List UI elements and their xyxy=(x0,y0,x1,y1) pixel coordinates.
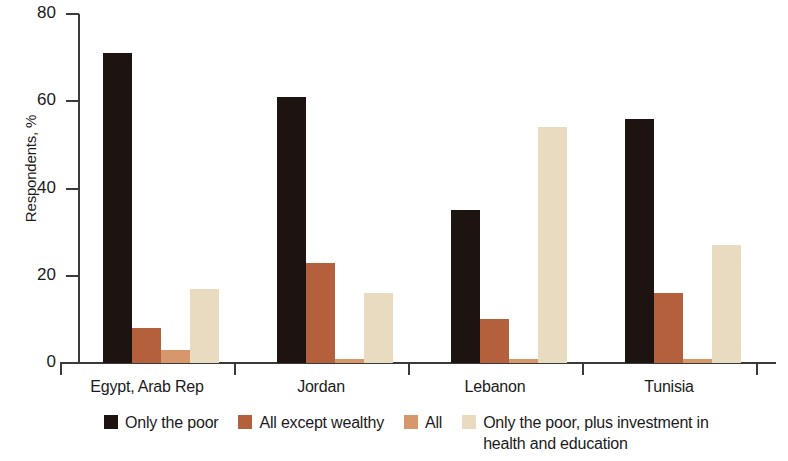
bar xyxy=(683,359,712,363)
y-tick-label: 20 xyxy=(2,266,56,283)
y-tick-0: 0 xyxy=(0,362,78,364)
bar xyxy=(277,97,306,363)
category-label-4: Tunisia xyxy=(579,377,759,396)
y-tick-label: 40 xyxy=(2,179,56,196)
chart-legend: Only the poorAll except wealthyAllOnly t… xyxy=(104,412,780,454)
bar xyxy=(161,350,190,363)
y-tick-label: 80 xyxy=(2,4,56,21)
x-tick-mark xyxy=(408,364,410,375)
bar xyxy=(480,319,509,363)
bar xyxy=(335,359,364,363)
bar xyxy=(451,210,480,363)
x-tick-mark xyxy=(756,364,758,375)
legend-label: All xyxy=(425,412,442,433)
bar-chart: Respondents, % 806040200 Egypt, Arab Rep… xyxy=(0,0,788,461)
x-tick-mark xyxy=(234,364,236,375)
category-label-2: Jordan xyxy=(231,377,411,396)
bar xyxy=(654,293,683,363)
legend-swatch-icon xyxy=(404,415,418,429)
bar xyxy=(103,53,132,363)
x-tick-mark xyxy=(60,364,62,375)
bar xyxy=(190,289,219,363)
y-tick-mark xyxy=(66,100,79,102)
y-tick-mark xyxy=(66,188,79,190)
y-tick-20: 20 xyxy=(0,275,78,277)
y-tick-label: 60 xyxy=(2,91,56,108)
legend-label: Only the poor, plus investment in health… xyxy=(483,412,709,454)
legend-row: Only the poorAll except wealthyAllOnly t… xyxy=(104,412,780,454)
y-tick-60: 60 xyxy=(0,100,78,102)
y-tick-80: 80 xyxy=(0,13,78,15)
y-tick-40: 40 xyxy=(0,188,78,190)
category-label-1: Egypt, Arab Rep xyxy=(57,377,237,396)
legend-label: Only the poor xyxy=(125,412,218,433)
bar xyxy=(712,245,741,363)
bar xyxy=(625,119,654,363)
bar xyxy=(364,293,393,363)
legend-swatch-icon xyxy=(238,415,252,429)
legend-item-4[interactable]: Only the poor, plus investment in health… xyxy=(462,412,709,454)
category-label-3: Lebanon xyxy=(405,377,585,396)
legend-swatch-icon xyxy=(462,415,476,429)
legend-swatch-icon xyxy=(104,415,118,429)
y-tick-label: 0 xyxy=(2,353,56,370)
bar xyxy=(538,127,567,363)
legend-item-3[interactable]: All xyxy=(404,412,442,433)
y-tick-mark xyxy=(66,275,79,277)
bar xyxy=(509,359,538,363)
y-tick-mark xyxy=(66,362,79,364)
bar xyxy=(306,263,335,363)
y-tick-mark xyxy=(66,13,79,15)
bar xyxy=(132,328,161,363)
legend-label: All except wealthy xyxy=(259,412,383,433)
legend-item-1[interactable]: Only the poor xyxy=(104,412,218,433)
legend-item-2[interactable]: All except wealthy xyxy=(238,412,383,433)
x-tick-mark xyxy=(582,364,584,375)
plot-area xyxy=(80,14,776,363)
y-axis-title: Respondents, % xyxy=(22,49,39,289)
